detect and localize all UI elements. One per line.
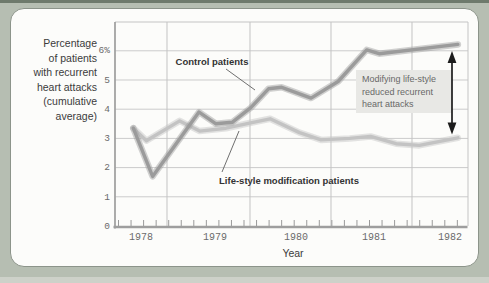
y-tick-4: 4 — [80, 104, 110, 115]
control-series-label: Control patients — [176, 56, 249, 67]
y-tick-1: 1 — [80, 192, 110, 203]
arrow-head-down — [448, 123, 457, 135]
y-tick-6: 6% — [80, 45, 110, 56]
y-tick-5: 5 — [80, 75, 110, 86]
x-tick-1980: 1980 — [274, 232, 318, 243]
x-tick-1981: 1981 — [352, 232, 396, 243]
y-tick-0: 0 — [80, 221, 110, 232]
lifestyle-callout-line — [222, 131, 239, 172]
x-tick-1978: 1978 — [119, 232, 163, 243]
x-tick-1979: 1979 — [193, 232, 237, 243]
lifestyle-series-label: Life-style modification patients — [219, 175, 359, 186]
x-tick-1982: 1982 — [428, 232, 472, 243]
annotation-line: heart attacks — [362, 98, 452, 111]
annotation-line: Modifying life-style — [362, 73, 452, 86]
y-tick-3: 3 — [80, 133, 110, 144]
y-tick-2: 2 — [80, 162, 110, 173]
annotation-text: Modifying life-style reduced recurrent h… — [362, 73, 452, 111]
annotation-line: reduced recurrent — [362, 86, 452, 99]
arrow-head-up — [448, 51, 457, 63]
x-axis-label: Year — [271, 247, 315, 259]
